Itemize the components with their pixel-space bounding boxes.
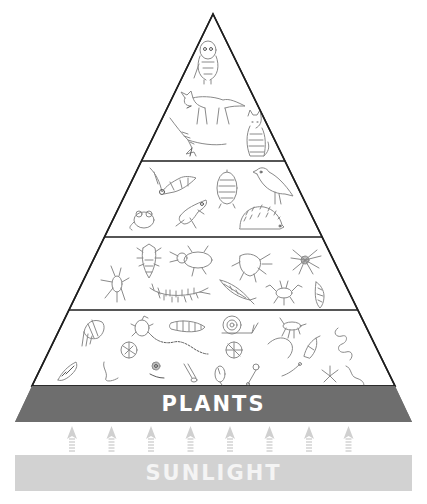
sunlight-arrow-icon bbox=[344, 426, 354, 451]
spore-icon bbox=[152, 362, 160, 370]
sunlight-arrows bbox=[67, 426, 354, 451]
sunlight-arrow-icon bbox=[225, 426, 235, 451]
sunlight-arrow-icon bbox=[67, 426, 77, 451]
plants-label: PLANTS bbox=[0, 389, 427, 419]
food-pyramid-diagram bbox=[0, 0, 427, 504]
sunlight-arrow-icon bbox=[186, 426, 196, 451]
sunlight-arrow-icon bbox=[265, 426, 275, 451]
sunlight-arrow-icon bbox=[107, 426, 117, 451]
shell-icon bbox=[226, 342, 242, 358]
sunlight-arrow-icon bbox=[146, 426, 156, 451]
sunlight-label: SUNLIGHT bbox=[0, 458, 427, 488]
sunlight-arrow-icon bbox=[304, 426, 314, 451]
pyramid-outline bbox=[32, 14, 395, 386]
